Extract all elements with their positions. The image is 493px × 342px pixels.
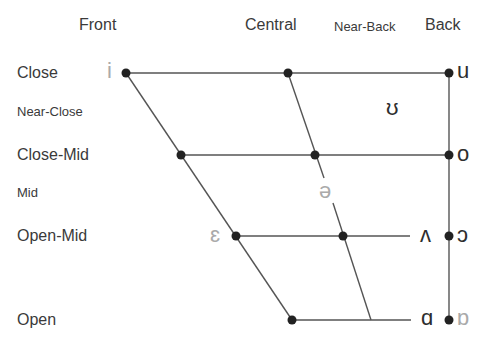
dot-close-mid-central [311, 151, 320, 160]
dot-open-mid-central [339, 232, 348, 241]
dot-epsilon [232, 232, 241, 241]
dot-open-o [445, 232, 454, 241]
vowel-trapezoid [0, 0, 493, 342]
central-edge-lower [333, 203, 371, 320]
vowel-upsilon: ʊ [386, 97, 399, 119]
central-edge-upper [288, 73, 324, 178]
vowel-o: o [457, 143, 469, 165]
dot-i [122, 69, 131, 78]
vowel-u: u [457, 60, 469, 82]
dot-u [445, 69, 454, 78]
front-edge [126, 73, 292, 320]
dot-close-mid-front [177, 151, 186, 160]
dot-o [445, 151, 454, 160]
dot-close-central [284, 69, 293, 78]
dot-open-front [288, 316, 297, 325]
vowel-wedge: ʌ [420, 224, 431, 246]
vowel-i: i [107, 60, 112, 82]
vowel-script-a: ɑ [421, 307, 433, 329]
vowel-schwa: ə [319, 180, 331, 202]
dot-script-a [445, 316, 454, 325]
vowel-open-o: ɔ [457, 224, 468, 246]
vowel-turned-script-a: ɒ [457, 307, 469, 329]
vowel-epsilon: ɛ [210, 224, 220, 246]
